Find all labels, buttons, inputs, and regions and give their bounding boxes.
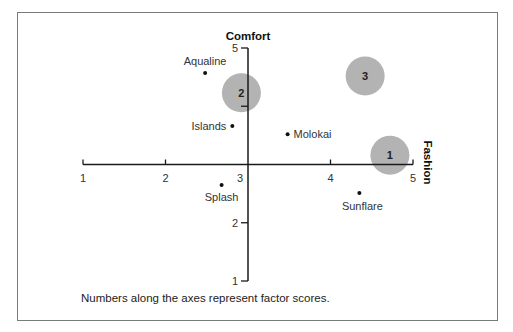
ideal-point-label: 1 [387, 149, 393, 161]
x-tick-label: 4 [327, 172, 333, 184]
x-axis-title: Fashion [422, 140, 434, 184]
ideal-point-label: 2 [238, 87, 244, 99]
y-tick-label: 5 [232, 42, 238, 54]
data-point-label: Molokai [294, 128, 332, 140]
data-point [203, 71, 207, 75]
x-tick-label: 5 [410, 172, 416, 184]
y-tick-label: 1 [232, 275, 238, 287]
data-point [286, 132, 290, 136]
perceptual-map: 12312345125ComfortFashionAqualineIslands… [0, 0, 513, 332]
data-point-label: Islands [191, 120, 226, 132]
ideal-point-label: 3 [362, 70, 368, 82]
y-tick-label: 2 [232, 217, 238, 229]
data-point-label: Splash [205, 191, 239, 203]
chart-caption: Numbers along the axes represent factor … [81, 292, 330, 304]
data-point-label: Aqualine [184, 55, 227, 67]
data-point [230, 124, 234, 128]
x-tick-label: 2 [162, 172, 168, 184]
data-point-label: Sunflare [342, 200, 383, 212]
data-point [220, 183, 224, 187]
y-axis-title: Comfort [226, 30, 271, 42]
x-tick-label: 1 [80, 172, 86, 184]
data-point [357, 191, 361, 195]
x-tick-label: 3 [237, 172, 243, 184]
